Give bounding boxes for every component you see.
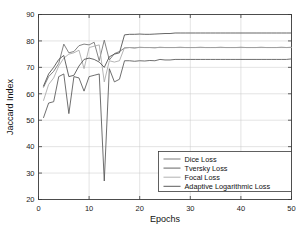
x-tick-label: 40: [237, 204, 245, 213]
x-tick-label: 10: [85, 204, 93, 213]
legend-label-1[interactable]: Tversky Loss: [185, 164, 228, 173]
y-axis-title: Jaccard Index: [5, 78, 15, 135]
x-tick-label: 50: [287, 204, 295, 213]
y-tick-label: 30: [26, 169, 34, 178]
y-tick-label: 90: [26, 10, 34, 19]
legend-label-0[interactable]: Dice Loss: [185, 155, 217, 164]
chart-legend[interactable]: Dice LossTversky LossFocal LossAdaptive …: [159, 152, 292, 192]
legend-label-2[interactable]: Focal Loss: [185, 173, 221, 182]
x-axis-title: Epochs: [150, 214, 181, 224]
y-tick-label: 50: [26, 116, 34, 125]
y-tick-label: 70: [26, 63, 34, 72]
chart-background: [0, 0, 308, 232]
x-tick-label: 30: [186, 204, 194, 213]
chart-figure: 2030405060708090 01020304050 Epochs Jacc…: [0, 0, 308, 232]
x-tick-label: 0: [36, 204, 40, 213]
y-tick-label: 60: [26, 90, 34, 99]
line-chart: 2030405060708090 01020304050 Epochs Jacc…: [0, 0, 308, 232]
y-tick-label: 40: [26, 142, 34, 151]
legend-label-3[interactable]: Adaptive Logarithmic Loss: [185, 182, 271, 191]
y-tick-label: 80: [26, 37, 34, 46]
y-tick-label: 20: [26, 195, 34, 204]
x-tick-label: 20: [136, 204, 144, 213]
